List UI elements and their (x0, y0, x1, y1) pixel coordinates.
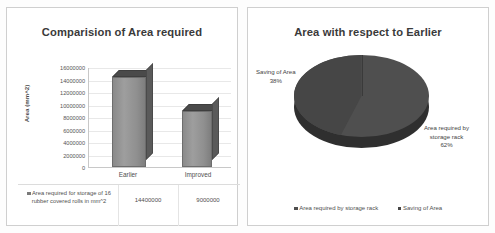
pie-label-rack-line1: Area required by (424, 124, 469, 133)
bar-earlier-front-face (112, 77, 146, 167)
y-tick-2000000: 2000000 (63, 153, 85, 159)
pie-legend: Area required by storage rack Saving of … (248, 205, 488, 211)
pie-legend-item-rack[interactable]: Area required by storage rack (294, 205, 378, 211)
bar-chart-panel: Comparision of Area required Area (mm^2)… (6, 7, 238, 226)
bar-earlier[interactable] (112, 77, 146, 167)
bar-plot-area (88, 68, 231, 168)
bar-earlier-side-face (146, 63, 153, 160)
pie-legend-swatch-saving (398, 207, 402, 211)
pie-label-saving-name: Saving of Area (256, 68, 296, 77)
x-axis-label-improved: Improved (170, 171, 226, 178)
screenshot-canvas: Comparision of Area required Area (mm^2)… (0, 0, 495, 233)
pie-legend-label-rack: Area required by storage rack (299, 205, 378, 211)
table-value-earlier: 14400000 (118, 197, 178, 203)
x-axis-label-earlier: Earlier (102, 171, 154, 178)
pie-legend-swatch-rack (294, 207, 298, 211)
table-series-legend: Area required for storage of 16 rubber c… (20, 189, 118, 206)
pie-label-storage-rack: Area required by storage rack 62% (424, 124, 469, 150)
gridline-2 (89, 93, 231, 94)
pie-graphic (294, 55, 429, 165)
y-tick-14000000: 14000000 (60, 78, 85, 84)
table-divider-1 (118, 185, 119, 226)
bar-improved[interactable] (182, 111, 212, 167)
y-tick-10000000: 10000000 (60, 103, 85, 109)
pie-label-saving-pct: 38% (256, 77, 296, 86)
table-series-label: Area required for storage of 16 rubber c… (32, 190, 111, 204)
bar-improved-front-face (182, 111, 212, 167)
y-axis-title: Area (mm^2) (23, 73, 30, 135)
y-tick-4000000: 4000000 (63, 140, 85, 146)
pie-label-rack-line2: storage rack (424, 133, 469, 142)
gridline-1 (89, 81, 231, 82)
pie-label-rack-pct: 62% (424, 141, 469, 150)
x-axis-category-labels: Earlier Improved (88, 171, 238, 183)
bar-improved-side-face (212, 97, 219, 160)
gridline-0 (89, 68, 231, 69)
series-color-swatch (27, 192, 30, 195)
y-tick-12000000: 12000000 (60, 90, 85, 96)
pie-chart-title: Area with respect to Earlier (248, 26, 488, 38)
y-axis-tick-labels: 1600000014000000120000001000000080000006… (43, 63, 87, 175)
table-divider-2 (178, 185, 179, 226)
bar-chart-title: Comparision of Area required (7, 26, 237, 38)
pie-top-surface[interactable] (294, 55, 429, 137)
y-tick-8000000: 8000000 (63, 115, 85, 121)
pie-label-saving-of-area: Saving of Area 38% (256, 68, 296, 85)
y-tick-0: 0 (82, 165, 85, 171)
pie-slice-divider (362, 55, 363, 96)
y-tick-16000000: 16000000 (60, 65, 85, 71)
pie-chart-panel: Area with respect to Earlier Area requir… (247, 7, 489, 226)
table-value-improved: 9000000 (178, 197, 238, 203)
y-tick-6000000: 6000000 (63, 128, 85, 134)
pie-legend-item-saving[interactable]: Saving of Area (398, 205, 442, 211)
data-table: Area required for storage of 16 rubber c… (18, 184, 240, 226)
pie-legend-label-saving: Saving of Area (403, 205, 442, 211)
